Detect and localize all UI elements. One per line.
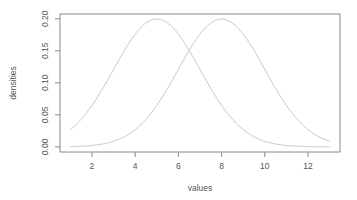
density-chart: 24681012 0.000.050.100.150.20 values den… <box>0 0 357 200</box>
x-tick-label: 2 <box>90 161 95 171</box>
x-tick-label: 12 <box>303 161 313 171</box>
y-tick-label: 0.15 <box>40 42 50 59</box>
x-tick-label: 10 <box>260 161 270 171</box>
x-tick-label: 6 <box>176 161 181 171</box>
x-axis-title: values <box>188 183 213 193</box>
y-axis-title: densities <box>8 66 18 100</box>
y-tick-label: 0.10 <box>40 74 50 91</box>
y-tick-label: 0.00 <box>40 138 50 155</box>
density-curve-1 <box>70 19 329 147</box>
x-tick-label: 4 <box>133 161 138 171</box>
x-tick-label: 8 <box>219 161 224 171</box>
y-tick-label: 0.05 <box>40 106 50 123</box>
y-tick-label: 0.20 <box>40 10 50 27</box>
x-axis: 24681012 <box>90 152 313 171</box>
density-curves <box>70 19 329 147</box>
y-axis: 0.000.050.100.150.20 <box>40 10 60 155</box>
density-curve-2 <box>70 19 329 146</box>
